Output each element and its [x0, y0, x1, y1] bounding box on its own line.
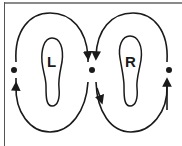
right-footprint-icon: R: [119, 36, 141, 106]
figure-eight-diagram: L R: [0, 0, 182, 146]
right-point-dot: [166, 67, 172, 73]
left-loop: [16, 13, 88, 132]
left-foot-label: L: [47, 53, 56, 70]
left-point-dot: [11, 67, 17, 73]
diagram-frame: L R: [0, 0, 182, 146]
right-foot-label: R: [125, 53, 136, 70]
right-loop: [96, 13, 167, 132]
center-point-dot: [89, 67, 95, 73]
left-footprint-icon: L: [42, 38, 63, 106]
